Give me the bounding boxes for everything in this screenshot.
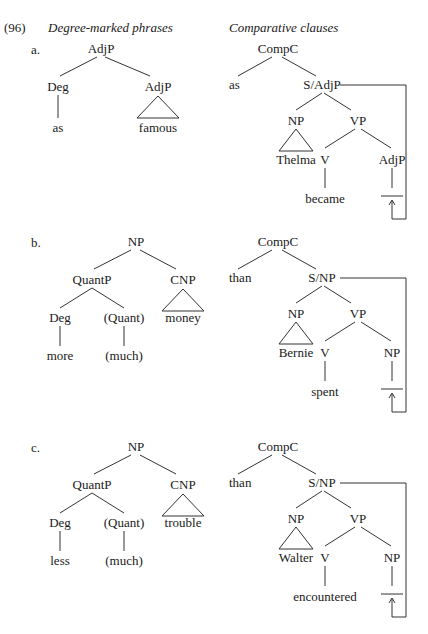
tree-branch [94, 455, 131, 474]
tree-branch [92, 493, 124, 513]
complementizer-a: as [229, 77, 240, 92]
leaf-verb-a: became [305, 191, 345, 206]
tree-branch [238, 250, 272, 269]
triangle-icon [137, 96, 179, 118]
tree-branch [324, 93, 351, 110]
leaf-verb-b: spent [311, 384, 339, 399]
node-np-root-b: NP [128, 234, 145, 249]
node-quant-c: (Quant) [104, 515, 144, 530]
complementizer-c: than [229, 475, 252, 490]
node-v-a: V [320, 152, 330, 167]
leaf-famous: famous [139, 120, 177, 135]
tree-branch [105, 57, 150, 76]
node-deg-c: Deg [49, 515, 71, 530]
triangle-icon [279, 322, 313, 344]
node-v-c: V [320, 550, 330, 565]
tree-branch [324, 286, 351, 303]
node-subject-np-a: NP [288, 113, 305, 128]
leaf-subject-b: Bernie [279, 345, 314, 360]
node-compc-c: CompC [258, 439, 298, 454]
leaf-deg-c: less [50, 553, 70, 568]
leaf-deg-b: more [47, 348, 74, 363]
leaf-as: as [53, 120, 64, 135]
node-vp-c: VP [350, 511, 367, 526]
tree-branch [238, 455, 272, 474]
node-slash-category-a: S/AdjP [303, 77, 341, 92]
node-quantp-c: QuantP [73, 477, 112, 492]
tree-branch [361, 527, 391, 546]
triangle-icon [279, 527, 313, 549]
node-subject-np-b: NP [288, 306, 305, 321]
complementizer-b: than [229, 270, 252, 285]
node-compc-a: CompC [258, 41, 298, 56]
node-deg-b: Deg [49, 310, 71, 325]
leaf-verb-c: encountered [293, 589, 357, 604]
syntax-trees: AdjPDegAdjPasfamousNPQuantPCNPDeg(Quant)… [0, 0, 428, 634]
leaf-noun-b: money [165, 310, 201, 325]
tree-branch [296, 491, 322, 508]
tree-branch [94, 250, 131, 269]
node-deg: Deg [47, 79, 69, 94]
leaf-subject-a: Thelma [276, 152, 316, 167]
tree-branch [361, 129, 391, 148]
node-slash-category-b: S/NP [308, 270, 335, 285]
tree-branch [325, 527, 355, 546]
tree-branch [140, 455, 176, 474]
node-cnp-c: CNP [170, 477, 195, 492]
triangle-icon [162, 289, 204, 311]
leaf-quant-c: (much) [105, 553, 143, 568]
tree-branch [238, 57, 272, 76]
tree-branch [282, 57, 316, 76]
node-adjp-root: AdjP [88, 41, 115, 56]
tree-branch [324, 491, 351, 508]
node-slash-category-c: S/NP [308, 475, 335, 490]
node-np-root-c: NP [128, 439, 145, 454]
tree-branch [325, 129, 355, 148]
tree-branch [296, 286, 322, 303]
tree-branch [140, 250, 176, 269]
leaf-noun-c: trouble [165, 515, 202, 530]
tree-branch [361, 322, 391, 341]
node-gap-b: NP [384, 345, 401, 360]
node-vp-b: VP [350, 306, 367, 321]
node-vp-a: VP [350, 113, 367, 128]
node-quantp-b: QuantP [73, 272, 112, 287]
tree-branch [325, 322, 355, 341]
tree-branch [60, 493, 92, 513]
triangle-icon [279, 129, 313, 151]
tree-branch [296, 93, 322, 110]
tree-branch [92, 288, 124, 308]
node-subject-np-c: NP [288, 511, 305, 526]
node-gap-a: AdjP [379, 152, 406, 167]
node-quant-b: (Quant) [104, 310, 144, 325]
node-gap-c: NP [384, 550, 401, 565]
tree-branch [60, 57, 97, 76]
triangle-icon [162, 494, 204, 516]
node-adjp: AdjP [145, 79, 172, 94]
node-v-b: V [320, 345, 330, 360]
node-cnp-b: CNP [170, 272, 195, 287]
tree-branch [60, 288, 92, 308]
leaf-quant-b: (much) [105, 348, 143, 363]
tree-branch [282, 250, 316, 269]
leaf-subject-c: Walter [279, 550, 314, 565]
node-compc-b: CompC [258, 234, 298, 249]
tree-branch [282, 455, 316, 474]
